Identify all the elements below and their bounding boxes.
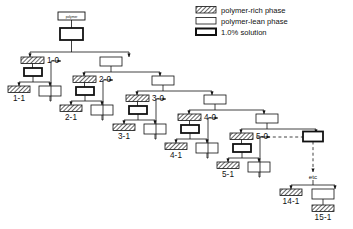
- legend: [196, 7, 216, 36]
- stage-label-5-0: 5-0: [256, 132, 268, 141]
- box-tail-solution: [303, 132, 323, 142]
- main-solution-box: [60, 28, 83, 40]
- fraction-label-2-1: 2-1: [65, 113, 77, 122]
- box-3-0-rich: [126, 95, 149, 102]
- stage-label-1-0: 1-0: [47, 56, 59, 65]
- box-15-lean: [312, 189, 334, 199]
- fraction-label-3-1: 3-1: [118, 132, 130, 141]
- box-4-0-rich: [178, 114, 201, 121]
- box-14-1-rich: [280, 189, 302, 196]
- box-5-solution: [233, 144, 251, 152]
- box-5-1-rich: [217, 162, 239, 169]
- legend-label-solution: 1.0% solution: [221, 28, 267, 37]
- box-3-1-rich: [113, 124, 135, 131]
- box-15-1-rich: [312, 205, 334, 212]
- box-1-0-rich: [21, 57, 44, 64]
- box-2-lean: [91, 105, 113, 115]
- box-1-1-rich: [8, 86, 30, 93]
- source-group: [30, 12, 129, 57]
- legend-swatch-rich: [196, 7, 216, 14]
- box-4-solution: [181, 125, 199, 133]
- fraction-label-1-1: 1-1: [13, 94, 25, 103]
- etc-label: etc: [309, 173, 317, 180]
- box-4-0-lean: [256, 114, 278, 123]
- box-3-lean: [144, 124, 166, 134]
- box-1-lean: [39, 86, 61, 96]
- tail-label-15-1: 15-1: [315, 213, 332, 222]
- box-2-1-rich: [60, 105, 82, 112]
- box-1-0-lean: [100, 57, 122, 66]
- box-5-0-rich: [230, 133, 253, 140]
- box-2-solution: [76, 87, 94, 95]
- tail-label-14-1: 14-1: [283, 197, 300, 206]
- stage-label-4-0: 4-0: [204, 113, 216, 122]
- source-box-label: polymer: [66, 15, 79, 19]
- legend-swatch-lean: [196, 18, 216, 25]
- box-3-0-lean: [204, 95, 226, 104]
- box-1-solution: [24, 68, 42, 76]
- box-2-0-lean: [152, 76, 174, 85]
- cascade-diagram: polymer polymer-rich phase polymer-lean …: [0, 0, 353, 229]
- box-3-solution: [129, 106, 147, 114]
- stage-label-3-0: 3-0: [152, 94, 164, 103]
- fraction-label-5-1: 5-1: [222, 170, 234, 179]
- fraction-label-4-1: 4-1: [170, 151, 182, 160]
- box-4-1-rich: [165, 143, 187, 150]
- box-5-lean: [248, 162, 270, 172]
- legend-swatch-solution: [196, 29, 216, 36]
- legend-label-lean: polymer-lean phase: [221, 17, 288, 26]
- figure-canvas: polymer polymer-rich phase polymer-lean …: [0, 0, 353, 229]
- legend-label-rich: polymer-rich phase: [221, 6, 286, 15]
- stage-label-2-0: 2-0: [99, 75, 111, 84]
- stage-5-group: [217, 114, 316, 177]
- box-2-0-rich: [73, 76, 96, 83]
- box-4-lean: [196, 143, 218, 153]
